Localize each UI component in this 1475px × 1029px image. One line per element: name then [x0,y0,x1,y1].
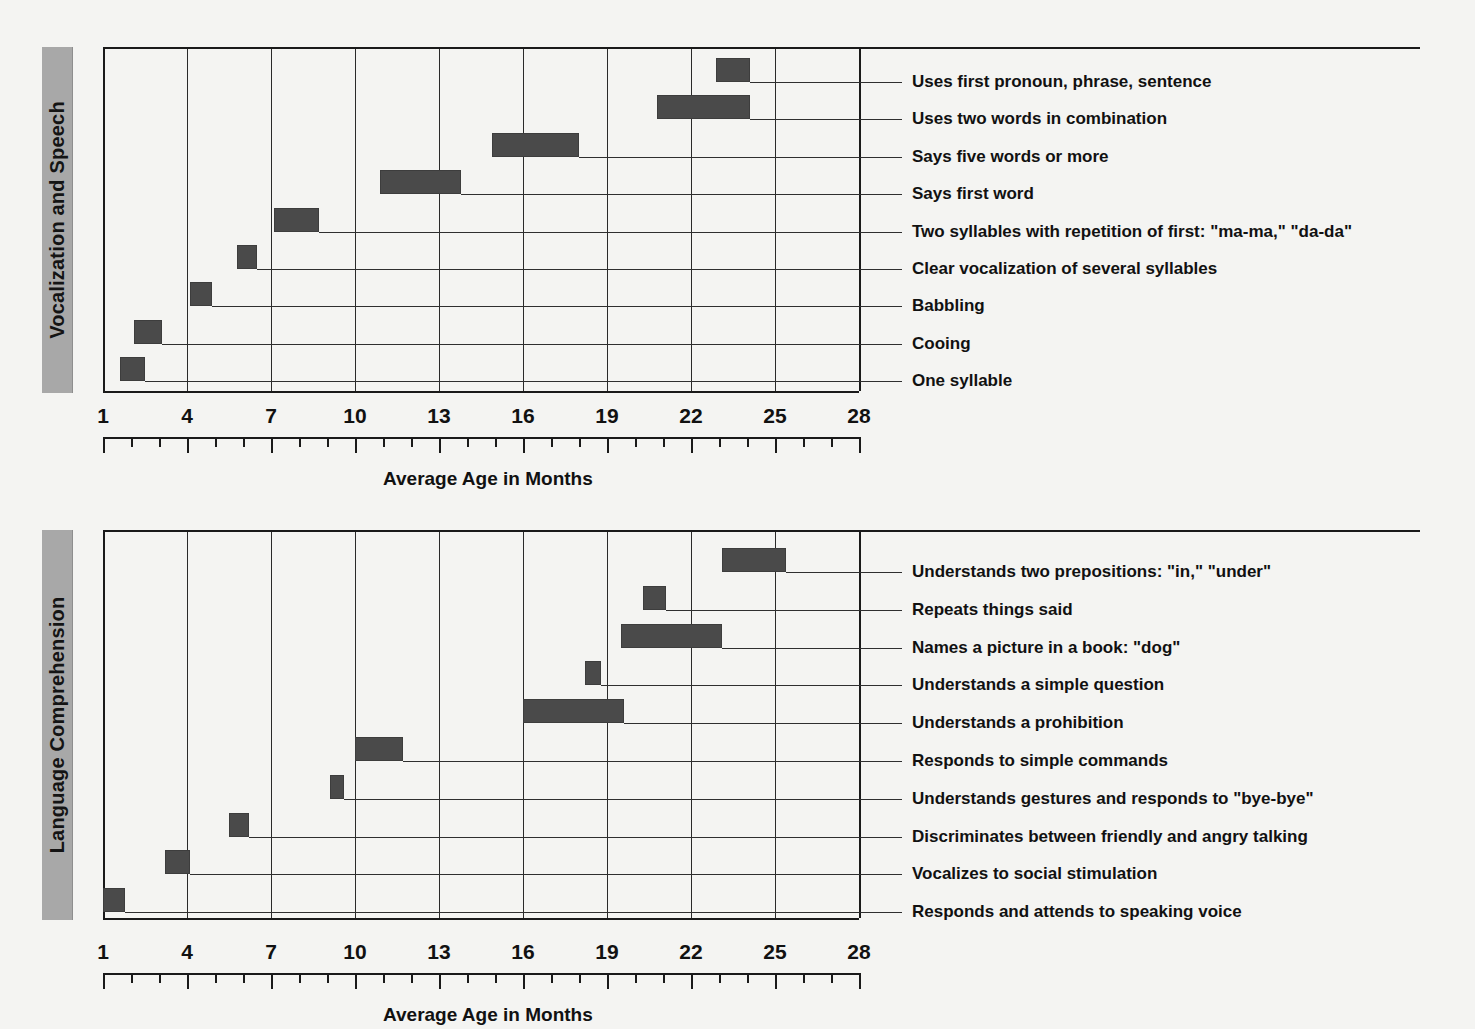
axis-tick-24 [747,973,749,983]
leader-line [319,232,902,233]
axis-tick-22 [691,437,693,453]
x-tick-label: 25 [763,405,786,426]
axis-tick-9 [327,437,329,447]
x-tick-label: 10 [343,941,366,962]
axis-tick-3 [159,437,161,447]
x-tick-label: 1 [97,405,109,426]
milestone-label: Understands two prepositions: "in," "und… [912,563,1271,580]
milestones-page: Vocalization and SpeechUses first pronou… [0,0,1475,1029]
milestone-label: Cooing [912,335,971,352]
milestone-label: Repeats things said [912,601,1073,618]
category-banner-vocalization-and-speech: Vocalization and Speech [42,47,73,393]
axis-tick-19 [607,973,609,989]
leader-line [750,119,902,120]
axis-tick-9 [327,973,329,983]
milestone-label: Names a picture in a book: "dog" [912,639,1180,656]
range-bar [165,850,190,874]
gridline-month-10 [355,532,356,918]
milestone-label: Says five words or more [912,148,1109,165]
milestone-label: Uses first pronoun, phrase, sentence [912,73,1211,90]
axis-tick-19 [607,437,609,453]
leader-line [786,572,902,573]
range-bar [523,699,624,723]
milestone-label: Understands a simple question [912,676,1164,693]
x-tick-label: 16 [511,941,534,962]
category-banner-label: Vocalization and Speech [46,101,69,339]
gridline-month-19 [607,532,608,918]
gridline-month-16 [523,532,524,918]
axis-tick-6 [243,437,245,447]
axis-tick-21 [663,973,665,983]
x-tick-label: 7 [265,405,277,426]
gridline-month-13 [439,49,440,391]
axis-tick-25 [775,973,777,989]
leader-line [461,194,902,195]
gridline-month-19 [607,49,608,391]
range-bar [134,320,162,344]
x-tick-label: 22 [679,941,702,962]
axis-tick-2 [131,437,133,447]
milestone-label: One syllable [912,372,1012,389]
milestone-label: Says first word [912,185,1034,202]
leader-line [601,685,902,686]
range-bar [237,245,257,269]
milestone-label: Understands a prohibition [912,714,1124,731]
x-tick-label: 1 [97,941,109,962]
range-bar [722,548,786,572]
range-bar [229,813,249,837]
axis-tick-21 [663,437,665,447]
axis-tick-24 [747,437,749,447]
leader-line [162,344,902,345]
axis-tick-4 [187,437,189,453]
gridline-month-28 [859,532,861,918]
category-banner-language-comprehension: Language Comprehension [42,530,73,920]
gridline-month-28 [859,49,861,391]
gridline-month-10 [355,49,356,391]
range-bar [330,775,344,799]
axis-tick-28 [859,973,861,989]
axis-tick-15 [495,437,497,447]
axis-tick-11 [383,437,385,447]
axis-tick-20 [635,973,637,983]
x-tick-label: 19 [595,941,618,962]
axis-tick-27 [831,437,833,447]
x-axis-tick-labels: 14710131619222528 [0,941,1475,965]
axis-tick-7 [271,437,273,453]
axis-tick-23 [719,437,721,447]
x-tick-label: 4 [181,405,193,426]
leader-line [125,912,902,913]
milestone-label: Two syllables with repetition of first: … [912,223,1352,240]
axis-tick-17 [551,437,553,447]
leader-line [212,306,902,307]
x-tick-label: 28 [847,405,870,426]
axis-tick-25 [775,437,777,453]
axis-tick-14 [467,973,469,983]
plot-area-language-comprehension [103,530,859,920]
range-bar [190,282,212,306]
axis-tick-20 [635,437,637,447]
x-tick-label: 10 [343,405,366,426]
range-bar [355,737,403,761]
axis-tick-17 [551,973,553,983]
clipped-top-text [250,0,1420,9]
axis-tick-12 [411,973,413,983]
x-axis-title: Average Age in Months [383,468,593,490]
gridline-month-7 [271,49,272,391]
gridline-month-1 [103,49,105,391]
range-bar [492,133,579,157]
leader-line [344,799,902,800]
axis-tick-22 [691,973,693,989]
x-tick-label: 22 [679,405,702,426]
leader-line [257,269,902,270]
leader-line [750,82,902,83]
axis-tick-6 [243,973,245,983]
gridline-month-4 [187,49,188,391]
range-bar [643,586,665,610]
axis-tick-13 [439,437,441,453]
milestone-label: Responds to simple commands [912,752,1168,769]
axis-tick-4 [187,973,189,989]
gridline-month-22 [691,532,692,918]
axis-tick-5 [215,973,217,983]
x-axis-ruler [103,973,859,989]
leader-line [666,610,902,611]
